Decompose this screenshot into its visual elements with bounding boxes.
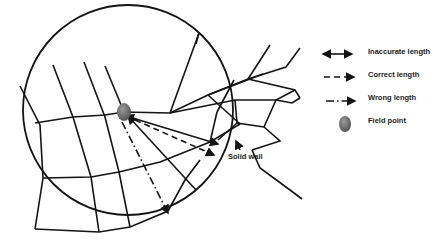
distance-arrows — [122, 116, 240, 213]
legend-item-correct: Correct length — [318, 67, 446, 90]
solid-wall-label: Solid wall — [228, 152, 263, 161]
legend: Inaccurate length Correct length Wrong l… — [318, 44, 446, 136]
legend-item-inaccurate: Inaccurate length — [318, 44, 446, 67]
legend-label: Wrong length — [368, 93, 416, 102]
field-point-icon — [117, 103, 131, 121]
correct-length-arrow — [126, 116, 214, 155]
legend-item-wrong: Wrong length — [318, 90, 446, 113]
solid-wall-pointer — [236, 141, 240, 150]
legend-item-field-point: Field point — [318, 113, 446, 136]
legend-label: Inaccurate length — [368, 47, 430, 56]
mesh-grid — [20, 33, 302, 232]
legend-label: Field point — [368, 116, 406, 125]
legend-label: Correct length — [368, 70, 419, 79]
